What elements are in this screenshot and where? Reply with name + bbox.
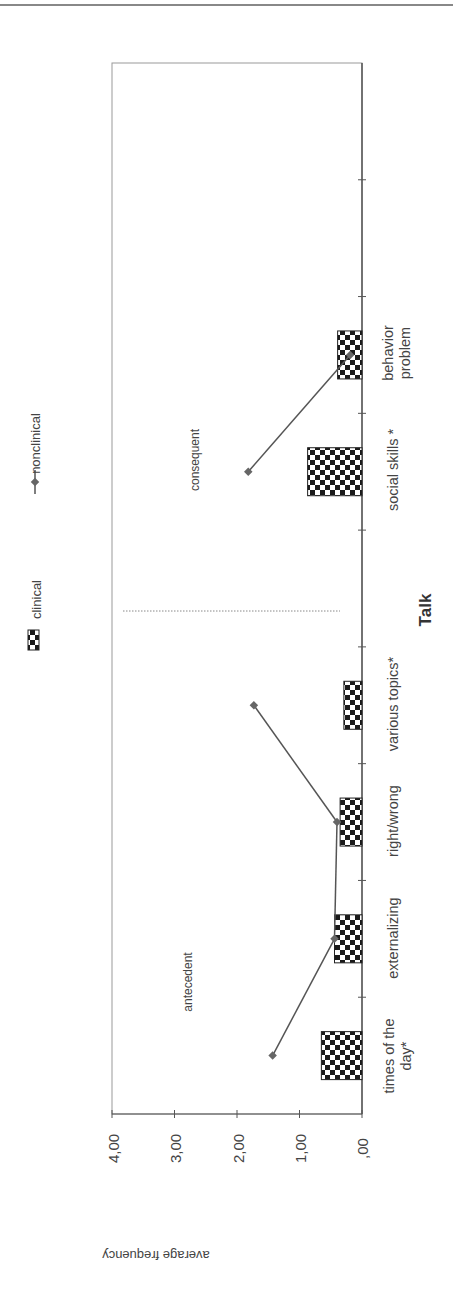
category-label-externalizing: externalizing <box>385 883 403 993</box>
antecedent-label: antecedent <box>181 942 195 1022</box>
bar-clinical <box>344 681 362 729</box>
category-label-social-skills: social skills * <box>385 405 403 535</box>
category-label-various-topics: various topics* <box>385 639 403 769</box>
plot-frame <box>112 63 366 1118</box>
legend-nonclinical-label: nonclinical <box>28 404 43 484</box>
tick-label-1: 1,00 <box>292 1129 309 1169</box>
category-label-line: problem <box>397 313 414 393</box>
tick-label-3: 3,00 <box>167 1129 184 1169</box>
category-label-behavior-problem: behavior problem <box>380 313 416 393</box>
marker-nonclinical <box>268 1051 276 1059</box>
legend-clinical-label: clinical <box>29 570 44 630</box>
clinical-bars <box>308 331 362 1080</box>
bar-clinical <box>308 448 362 496</box>
category-label-right-wrong: right/wrong <box>385 771 403 871</box>
category-label-line: day* <box>398 1006 415 1106</box>
legend-clinical-swatch <box>28 630 39 650</box>
tick-label-2: 2,00 <box>230 1129 247 1169</box>
bar-clinical <box>340 798 362 846</box>
tick-label-4: 4,00 <box>105 1129 122 1169</box>
category-label-line: times of the <box>381 1006 398 1106</box>
x-axis-title: Talk <box>416 590 436 630</box>
consequent-label: consequent <box>188 420 202 500</box>
category-label-times-of-the-day: times of the day* <box>381 1006 417 1106</box>
category-label-line: behavior <box>380 313 397 393</box>
y-axis-title: average frequency <box>86 1248 226 1263</box>
tick-label-0: ,00 <box>354 1129 371 1169</box>
bar-clinical <box>321 1032 362 1080</box>
